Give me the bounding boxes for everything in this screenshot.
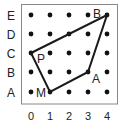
row-label-c: C [7, 47, 16, 61]
vertex-label-b: B [93, 7, 101, 21]
col-label-1: 1 [47, 110, 53, 122]
vertex-label-p: P [37, 52, 45, 66]
row-label-d: D [7, 28, 16, 42]
vertex-label-m: M [36, 86, 46, 100]
vertex-label-a: A [92, 72, 100, 86]
row-label-e: E [7, 9, 15, 23]
row-label-a: A [7, 86, 15, 100]
col-label-2: 2 [66, 110, 72, 122]
grid-diagram: E D C B A 0 1 2 3 4 B P A M [0, 0, 126, 127]
col-label-0: 0 [28, 110, 34, 122]
col-label-4: 4 [104, 110, 110, 122]
row-label-b: B [7, 66, 15, 80]
col-label-3: 3 [85, 110, 91, 122]
